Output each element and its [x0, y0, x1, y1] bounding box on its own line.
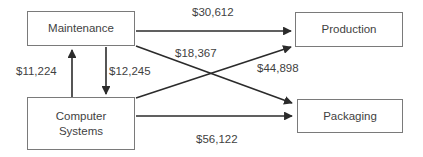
node-production[interactable]: Production — [295, 12, 403, 47]
edge-label-maintenance-to-computer-systems: $12,245 — [109, 65, 151, 78]
node-maintenance-label: Maintenance — [48, 21, 114, 36]
node-packaging[interactable]: Packaging — [297, 99, 403, 133]
edge-label-computer-systems-to-packaging: $56,122 — [196, 133, 238, 146]
node-maintenance[interactable]: Maintenance — [27, 11, 135, 46]
node-computer-systems-label-line1: Computer — [56, 109, 107, 124]
node-computer-systems[interactable]: Computer Systems — [27, 97, 135, 150]
edge-label-maintenance-to-production: $30,612 — [192, 6, 234, 19]
node-production-label: Production — [322, 22, 377, 37]
node-computer-systems-label-line2: Systems — [59, 124, 103, 139]
edge-label-maintenance-to-packaging: $18,367 — [175, 47, 217, 60]
node-packaging-label: Packaging — [323, 109, 377, 124]
edge-label-computer-systems-to-maintenance: $11,224 — [16, 65, 57, 78]
edge-label-computer-systems-to-production: $44,898 — [257, 62, 299, 75]
flow-diagram: Maintenance Production Computer Systems … — [0, 0, 423, 157]
